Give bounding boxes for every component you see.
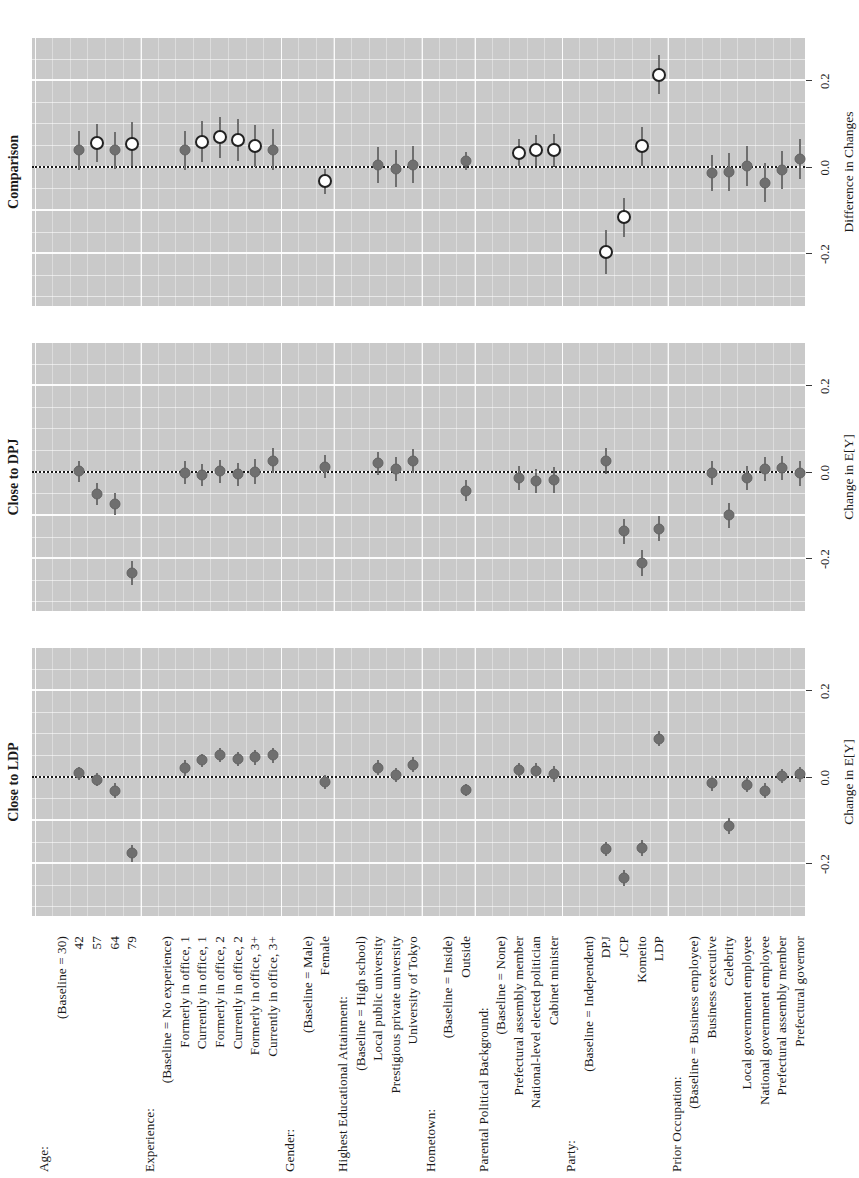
- estimate-point: [635, 139, 649, 153]
- estimate-point: [195, 135, 209, 149]
- x-axis-title: Change in E[Y]: [841, 648, 857, 916]
- grid-line-horizontal-minor: [702, 343, 703, 611]
- estimate-point: [179, 763, 190, 774]
- row-label: (Baseline = No experience): [160, 936, 173, 1083]
- grid-line-horizontal-minor: [597, 38, 598, 306]
- x-axis-tick-label: 0.2: [818, 378, 833, 394]
- estimate-point: [742, 779, 753, 790]
- grid-line-horizontal-minor: [773, 648, 774, 916]
- grid-line-horizontal-minor: [579, 38, 580, 306]
- grid-line-horizontal-minor: [685, 38, 686, 306]
- row-label: National government employee: [758, 936, 771, 1105]
- grid-line-horizontal-minor: [755, 38, 756, 306]
- grid-line-horizontal-minor: [685, 343, 686, 611]
- estimate-point: [460, 155, 471, 166]
- estimate-point: [390, 163, 401, 174]
- grid-line-vertical: [32, 647, 805, 648]
- estimate-point: [214, 466, 225, 477]
- grid-line-horizontal-minor: [228, 38, 229, 306]
- grid-line-horizontal-minor: [685, 648, 686, 916]
- grid-line-horizontal-minor: [492, 648, 493, 916]
- grid-line-vertical: [32, 232, 805, 233]
- row-label: National-level elected politician: [529, 936, 542, 1108]
- estimate-point: [794, 769, 805, 780]
- estimate-point: [548, 475, 559, 486]
- x-axis-tick-label: 0.2: [818, 683, 833, 699]
- grid-line-horizontal-minor: [52, 343, 53, 611]
- x-axis-tick: [806, 558, 812, 559]
- x-axis-tick-label: 0.2: [818, 73, 833, 89]
- panel-title-ldp: Close to LDP: [6, 648, 22, 916]
- grid-line-horizontal-minor: [755, 343, 756, 611]
- grid-line-horizontal-minor: [808, 648, 809, 916]
- row-label: 64: [108, 936, 121, 949]
- estimate-point: [90, 136, 104, 150]
- row-label: (Baseline = None): [494, 936, 507, 1035]
- row-label: (Baseline = 30): [55, 936, 68, 1019]
- grid-line-horizontal-minor: [509, 343, 510, 611]
- x-axis-tick-label: 0.0: [818, 770, 833, 786]
- estimate-point: [601, 456, 612, 467]
- grid-line-horizontal-minor: [597, 648, 598, 916]
- row-label: JCP: [617, 936, 630, 958]
- estimate-point: [759, 177, 770, 188]
- estimate-point: [547, 143, 561, 157]
- grid-line-vertical: [32, 819, 805, 821]
- grid-line-horizontal-minor: [702, 648, 703, 916]
- grid-line-horizontal-minor: [228, 648, 229, 916]
- estimate-point: [373, 762, 384, 773]
- estimate-point: [706, 778, 717, 789]
- grid-line-horizontal-minor: [667, 648, 668, 916]
- estimate-point: [513, 473, 524, 484]
- estimate-point: [408, 759, 419, 770]
- grid-line-horizontal-minor: [773, 38, 774, 306]
- grid-line-horizontal-minor: [263, 38, 264, 306]
- grid-line-horizontal-minor: [246, 648, 247, 916]
- estimate-point: [92, 489, 103, 500]
- grid-line-vertical: [32, 514, 805, 516]
- estimate-point: [109, 785, 120, 796]
- grid-line-horizontal-minor: [614, 38, 615, 306]
- row-group-header: Prior Occupation:: [670, 1076, 683, 1172]
- estimate-point: [724, 510, 735, 521]
- estimate-point: [513, 764, 524, 775]
- estimate-point: [197, 755, 208, 766]
- grid-line-horizontal-minor: [140, 343, 141, 611]
- grid-line-vertical: [32, 384, 805, 386]
- x-axis-tick: [806, 253, 812, 254]
- grid-line-horizontal-minor: [579, 648, 580, 916]
- row-group-header: Hometown:: [424, 1109, 437, 1172]
- row-label: 42: [72, 936, 85, 949]
- estimate-point: [109, 145, 120, 156]
- grid-line-horizontal-minor: [123, 648, 124, 916]
- grid-line-horizontal-minor: [456, 38, 457, 306]
- estimate-point: [408, 159, 419, 170]
- grid-line-horizontal-minor: [702, 38, 703, 306]
- grid-line-horizontal-minor: [755, 648, 756, 916]
- x-axis-tick-label: -0.2: [818, 549, 833, 569]
- grid-line-vertical: [32, 450, 805, 451]
- grid-line-horizontal-minor: [808, 38, 809, 306]
- row-label: Celebrity: [722, 936, 735, 986]
- grid-line-horizontal-minor: [175, 343, 176, 611]
- row-label: Prefectural governor: [793, 936, 806, 1047]
- estimate-point: [531, 765, 542, 776]
- grid-line-horizontal-minor: [386, 38, 387, 306]
- grid-line-horizontal-minor: [562, 648, 563, 916]
- grid-line-vertical: [32, 557, 805, 559]
- estimate-point: [318, 174, 332, 188]
- grid-line-vertical: [32, 493, 805, 494]
- x-axis-tick: [806, 777, 812, 778]
- estimate-point: [267, 455, 278, 466]
- row-group-header: Party:: [564, 1140, 577, 1172]
- estimate-point: [512, 146, 526, 160]
- grid-line-vertical: [32, 102, 805, 103]
- grid-line-horizontal-minor: [316, 343, 317, 611]
- row-group-header: Experience:: [143, 1108, 156, 1172]
- estimate-point: [250, 466, 261, 477]
- grid-line-horizontal-minor: [544, 648, 545, 916]
- estimate-point: [197, 469, 208, 480]
- grid-line-vertical: [32, 252, 805, 254]
- grid-line-vertical: [32, 428, 805, 429]
- grid-line-horizontal-minor: [527, 38, 528, 306]
